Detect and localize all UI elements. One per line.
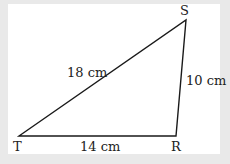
side-label-sr: 10 cm [186,74,226,87]
vertex-label-r: R [171,140,181,153]
vertex-label-s: S [180,4,189,17]
side-label-ts: 18 cm [67,66,107,79]
side-label-tr: 14 cm [80,140,120,153]
vertex-label-t: T [13,140,22,153]
